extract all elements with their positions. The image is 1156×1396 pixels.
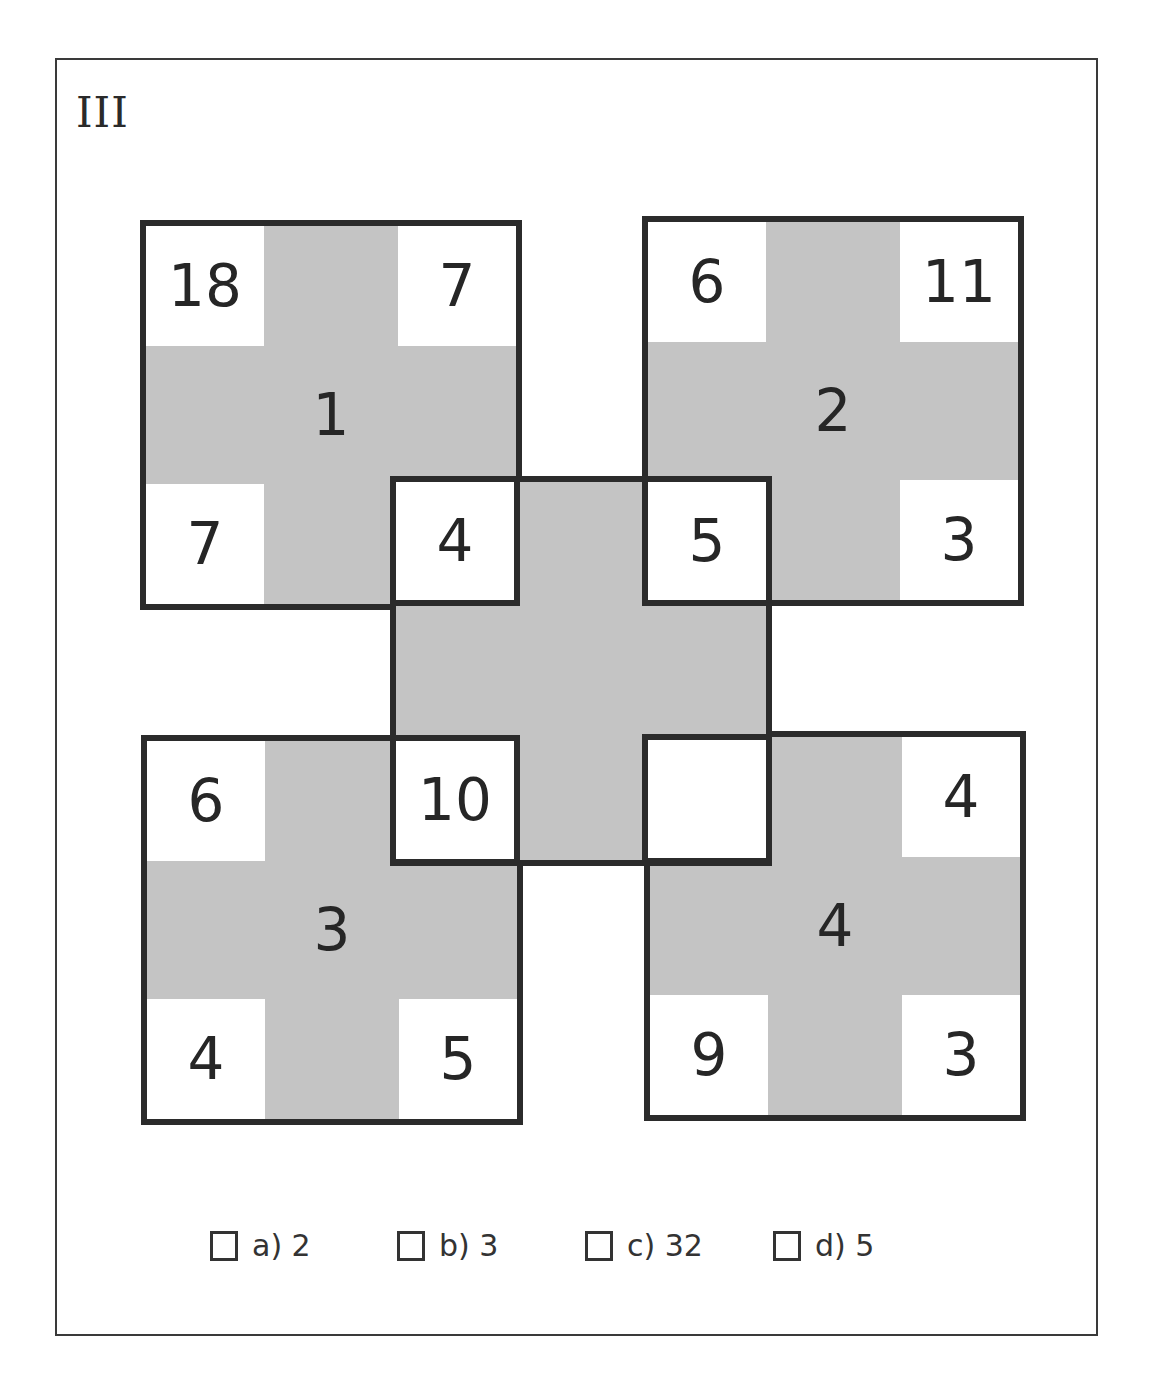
option-d-label: d) 5 (815, 1228, 874, 1263)
option-a-label: a) 2 (252, 1228, 311, 1263)
square-4-bottom-left-cell: 9 (650, 995, 768, 1115)
puzzle-number-label: III (76, 88, 129, 137)
answer-options: a) 2 b) 3 c) 32 d) 5 (0, 1228, 1156, 1268)
square-1-bottom-left-cell: 7 (146, 484, 264, 604)
square-3-top-left-cell: 6 (147, 741, 265, 861)
square-2-top-left-cell: 6 (648, 222, 766, 342)
overlap-cell-top-right: 5 (642, 476, 772, 606)
square-4-bottom-right-cell: 3 (902, 995, 1020, 1115)
square-1-center-number: 1 (146, 381, 516, 449)
checkbox-icon[interactable] (585, 1231, 613, 1261)
option-b-label: b) 3 (439, 1228, 498, 1263)
overlap-cell-bottom-right-missing (642, 734, 772, 864)
overlap-cell-top-left: 4 (390, 476, 520, 606)
square-1-top-right-cell: 7 (398, 226, 516, 346)
square-1-top-left-cell: 18 (146, 226, 264, 346)
square-3-bottom-right-cell: 5 (399, 999, 517, 1119)
square-2-center-number: 2 (648, 377, 1018, 445)
square-4-top-right-cell: 4 (902, 737, 1020, 857)
square-2-bottom-right-cell: 3 (900, 480, 1018, 600)
square-3-bottom-left-cell: 4 (147, 999, 265, 1119)
option-c[interactable]: c) 32 (585, 1228, 703, 1263)
checkbox-icon[interactable] (210, 1231, 238, 1261)
checkbox-icon[interactable] (773, 1231, 801, 1261)
option-c-label: c) 32 (627, 1228, 703, 1263)
option-d[interactable]: d) 5 (773, 1228, 874, 1263)
option-b[interactable]: b) 3 (397, 1228, 498, 1263)
option-a[interactable]: a) 2 (210, 1228, 311, 1263)
square-2-top-right-cell: 11 (900, 222, 1018, 342)
square-4-center-number: 4 (650, 892, 1020, 960)
square-3-center-number: 3 (147, 896, 517, 964)
checkbox-icon[interactable] (397, 1231, 425, 1261)
overlap-cell-bottom-left: 10 (390, 735, 520, 865)
